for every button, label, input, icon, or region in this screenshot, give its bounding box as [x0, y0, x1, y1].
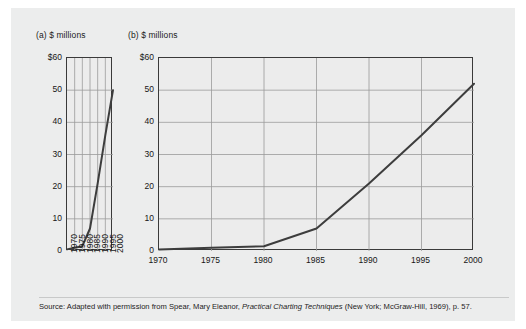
caption-book-title: Practical Charting Techniques: [242, 302, 343, 311]
chart-b-title: (b) $ millions: [128, 30, 178, 40]
y-axis-tick-label: 20: [124, 181, 154, 191]
x-axis-tick-label: 1990: [359, 255, 378, 265]
caption-text-part1: Source: Adapted with permission from Spe…: [39, 302, 242, 311]
chart-a-svg: [67, 58, 113, 251]
chart-a-plot-area: [66, 57, 112, 250]
y-axis-tick-label: 20: [32, 181, 62, 191]
y-axis-tick-label: 30: [32, 149, 62, 159]
caption-divider: [39, 297, 509, 298]
y-axis-tick-label: 10: [124, 213, 154, 223]
source-caption: Source: Adapted with permission from Spe…: [39, 301, 511, 313]
y-axis-tick-label: 40: [32, 116, 62, 126]
caption-text-part2: (New York; McGraw-Hill, 1969), p. 57.: [343, 302, 472, 311]
x-axis-tick-label: 2000: [464, 255, 483, 265]
y-axis-tick-label: 30: [124, 149, 154, 159]
figure-panel: (a) $ millions (b) $ millions $605040302…: [11, 8, 515, 321]
chart-a-title: (a) $ millions: [36, 30, 86, 40]
y-axis-tick-label: 10: [32, 213, 62, 223]
y-axis-tick-label: $60: [124, 52, 154, 62]
x-axis-tick-label: 1980: [254, 255, 273, 265]
x-axis-tick-label: 1985: [306, 255, 325, 265]
chart-b-svg: [159, 58, 474, 251]
y-axis-tick-label: 40: [124, 116, 154, 126]
x-axis-tick-label: 1995: [411, 255, 430, 265]
chart-b-plot-area: [158, 57, 473, 250]
y-axis-tick-label: 50: [32, 84, 62, 94]
y-axis-tick-label: $60: [32, 52, 62, 62]
y-axis-tick-label: 50: [124, 84, 154, 94]
x-axis-tick-label: 1970: [149, 255, 168, 265]
y-axis-tick-label: 0: [124, 245, 154, 255]
x-axis-tick-label: 1975: [201, 255, 220, 265]
y-axis-tick-label: 0: [32, 245, 62, 255]
figure-page: (a) $ millions (b) $ millions $605040302…: [0, 0, 526, 329]
